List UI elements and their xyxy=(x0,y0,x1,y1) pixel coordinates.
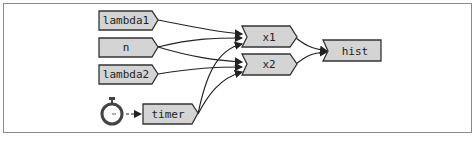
node-label: hist xyxy=(342,45,369,58)
edge-timer-x2 xyxy=(198,72,242,114)
node-label: lambda1 xyxy=(103,14,149,27)
node-n[interactable]: n xyxy=(99,38,158,57)
dataflow-diagram: lambda1 n lambda2 timer x1 x2 hist xyxy=(0,0,476,141)
node-label: x2 xyxy=(262,58,275,71)
edges xyxy=(126,20,327,114)
edge-lambda1-x1 xyxy=(158,20,242,34)
node-label: x1 xyxy=(262,31,275,44)
edge-n-x1 xyxy=(158,38,242,47)
node-x1[interactable]: x1 xyxy=(242,26,297,47)
edge-lambda2-x2 xyxy=(158,67,242,74)
node-lambda2[interactable]: lambda2 xyxy=(99,65,158,84)
edge-x2-hist xyxy=(296,52,327,64)
node-label: n xyxy=(123,41,130,54)
node-hist[interactable]: hist xyxy=(323,40,381,61)
node-x2[interactable]: x2 xyxy=(242,54,297,75)
stopwatch-icon xyxy=(102,97,122,124)
node-label: lambda2 xyxy=(103,68,149,81)
node-label: timer xyxy=(151,108,184,121)
node-lambda1[interactable]: lambda1 xyxy=(99,11,158,30)
node-timer[interactable]: timer xyxy=(143,104,198,124)
